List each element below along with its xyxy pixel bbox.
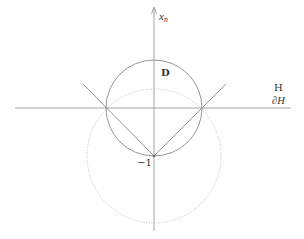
point-label: −1 xyxy=(137,157,152,168)
half-space-label: H xyxy=(274,82,283,93)
disk-label: D xyxy=(161,67,170,78)
right-diagonal-line xyxy=(154,84,226,156)
axis-label-subscript: n xyxy=(164,15,168,24)
diagram-canvas: xn D H ∂H −1 xyxy=(0,0,304,239)
left-diagonal-line xyxy=(83,84,154,156)
axis-label: xn xyxy=(158,10,168,24)
boundary-label: ∂H xyxy=(272,95,286,106)
point-minus-one xyxy=(153,155,156,158)
